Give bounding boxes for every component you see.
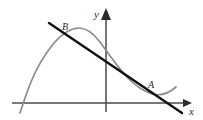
cubic-curve [20, 28, 176, 113]
up-arrow-icon [101, 8, 111, 20]
math-figure: x y B A [0, 0, 203, 120]
secant-line [49, 23, 182, 113]
x-axis-label: x [188, 105, 194, 117]
figure-canvas: x y B A [0, 0, 203, 120]
point-label-a: A [147, 79, 155, 90]
y-axis-label: y [93, 8, 99, 20]
point-label-b: B [62, 21, 68, 32]
